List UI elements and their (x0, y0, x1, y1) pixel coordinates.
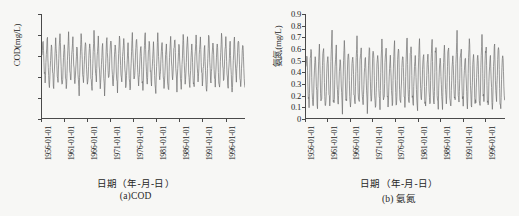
y-tick-ammonia-2 (302, 96, 305, 97)
y-tick-cod-3 (38, 56, 41, 57)
y-tick-label-ammonia-6: 0.6 (291, 45, 301, 54)
y-tick-label-ammonia-0: 0 (297, 115, 301, 124)
x-tick-ammonia-8 (485, 119, 486, 122)
y-tick-label-ammonia-3: 0.3 (291, 80, 301, 89)
x-axis-label-cod: 日期（年-月-日） (6, 176, 266, 190)
x-tick-label-ammonia-2: 1966-01-01 (353, 126, 361, 160)
x-tick-cod-5 (156, 119, 157, 122)
series-path-cod (42, 30, 245, 96)
x-tick-label-cod-5: 1981-01-01 (160, 126, 168, 160)
plot-area-ammonia (305, 14, 505, 119)
x-tick-label-ammonia-1: 1961-01-01 (331, 126, 339, 160)
x-tick-ammonia-4 (395, 119, 396, 122)
x-tick-label-ammonia-4: 1976-01-01 (398, 126, 406, 160)
x-tick-ammonia-3 (372, 119, 373, 122)
x-tick-cod-6 (179, 119, 180, 122)
y-tick-label-ammonia-5: 0.5 (291, 56, 301, 65)
x-tick-label-cod-3: 1971-01-01 (114, 126, 122, 160)
x-tick-label-cod-7: 1991-01-01 (206, 126, 214, 160)
x-tick-cod-0 (41, 119, 42, 122)
x-tick-label-ammonia-8: 1996-01-01 (489, 126, 497, 160)
series-line-cod (42, 14, 245, 119)
y-tick-cod-2 (38, 77, 41, 78)
x-tick-label-cod-8: 1996-01-01 (229, 126, 237, 160)
x-tick-ammonia-1 (327, 119, 328, 122)
x-tick-cod-2 (87, 119, 88, 122)
x-tick-label-ammonia-3: 1971-01-01 (376, 126, 384, 160)
y-tick-label-ammonia-4: 0.4 (291, 68, 301, 77)
x-tick-ammonia-7 (463, 119, 464, 122)
y-tick-label-ammonia-2: 0.2 (291, 91, 301, 100)
y-tick-label-ammonia-9: 0.9 (291, 10, 301, 19)
x-tick-label-cod-4: 1976-01-01 (137, 126, 145, 160)
caption-cod: (a)COD (6, 191, 266, 201)
figure-two-panel-timeseries: COD(mg/L) 日期（年-月-日） (a)COD 0510152025195… (0, 0, 519, 216)
x-tick-label-cod-2: 1966-01-01 (91, 126, 99, 160)
y-tick-label-ammonia-8: 0.8 (291, 21, 301, 30)
x-tick-ammonia-2 (350, 119, 351, 122)
x-tick-label-cod-1: 1961-01-01 (68, 126, 76, 160)
y-axis-label-ammonia: 氨氮(mg/L) (270, 14, 283, 80)
y-tick-label-ammonia-1: 0.1 (291, 103, 301, 112)
x-tick-label-cod-0: 1956-01-01 (45, 126, 53, 160)
y-tick-ammonia-4 (302, 72, 305, 73)
y-tick-cod-5 (38, 14, 41, 15)
x-tick-ammonia-6 (440, 119, 441, 122)
y-tick-ammonia-6 (302, 49, 305, 50)
x-tick-label-ammonia-0: 1956-01-01 (308, 126, 316, 160)
x-tick-cod-7 (202, 119, 203, 122)
x-tick-ammonia-5 (418, 119, 419, 122)
y-tick-label-ammonia-7: 0.7 (291, 33, 301, 42)
x-tick-cod-8 (226, 119, 227, 122)
y-tick-ammonia-8 (302, 26, 305, 27)
series-line-ammonia (306, 14, 505, 119)
y-tick-ammonia-9 (302, 14, 305, 15)
x-tick-cod-1 (64, 119, 65, 122)
x-tick-label-cod-6: 1986-01-01 (183, 126, 191, 160)
panel-cod: COD(mg/L) 日期（年-月-日） (a)COD 0510152025195… (0, 0, 260, 216)
x-tick-label-ammonia-5: 1981-01-01 (421, 126, 429, 160)
y-axis-label-cod: COD(mg/L) (12, 12, 22, 78)
y-tick-cod-4 (38, 35, 41, 36)
plot-area-cod (41, 14, 245, 119)
y-tick-ammonia-1 (302, 107, 305, 108)
x-tick-ammonia-0 (305, 119, 306, 122)
panel-ammonia: 氨氮(mg/L) 日期（年-月-日） (b) 氨氮 00.10.20.30.40… (260, 0, 519, 216)
y-tick-cod-1 (38, 98, 41, 99)
x-tick-cod-4 (133, 119, 134, 122)
x-tick-cod-3 (110, 119, 111, 122)
y-tick-ammonia-3 (302, 84, 305, 85)
y-tick-ammonia-7 (302, 37, 305, 38)
x-tick-label-ammonia-7: 1991-01-01 (466, 126, 474, 160)
x-axis-label-ammonia: 日期（年-月-日） (270, 176, 519, 190)
y-tick-ammonia-5 (302, 61, 305, 62)
series-path-ammonia (306, 30, 505, 114)
caption-ammonia: (b) 氨氮 (270, 191, 519, 205)
x-tick-label-ammonia-6: 1986-01-01 (444, 126, 452, 160)
